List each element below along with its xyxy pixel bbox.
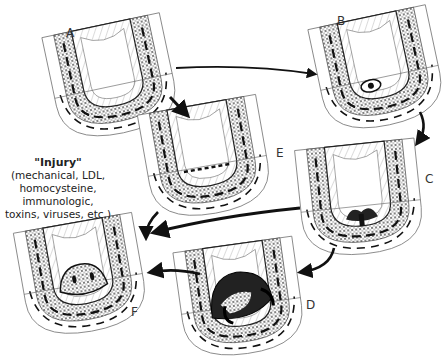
injury-line: homocysteine, [2,182,114,195]
atherosclerosis-diagram: A B C D E F "Injury" (mechanical, LDL, h… [0,0,448,364]
panel-d-vessel [173,236,307,362]
panel-label-c: C [425,172,433,186]
injury-note: "Injury" (mechanical, LDL, homocysteine,… [2,156,114,221]
injury-line: (mechanical, LDL, [2,169,114,182]
panel-c-vessel [295,138,426,260]
panel-b-vessel [308,5,448,138]
injury-line: toxins, viruses, etc.) [2,208,114,221]
panel-f-vessel [13,212,150,341]
arrow-b-to-c [418,112,424,142]
panel-label-b: B [337,14,345,28]
panel-label-d: D [306,298,315,312]
panel-label-a: A [66,26,74,40]
injury-title: "Injury" [2,156,114,169]
panel-label-f: F [131,305,138,319]
arrow-a-to-b [176,67,314,74]
panel-label-e: E [276,146,284,160]
injury-line: immunologic, [2,195,114,208]
panel-e-vessel [137,94,274,223]
